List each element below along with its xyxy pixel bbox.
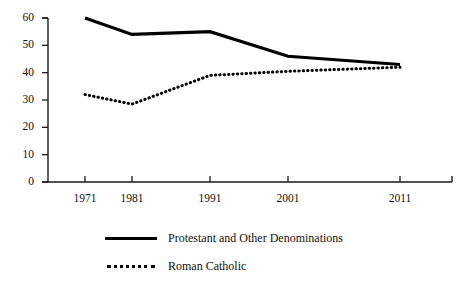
x-tick-label: 1971 xyxy=(60,192,110,204)
legend-dotted-line-icon xyxy=(105,260,157,272)
x-tick-label: 1991 xyxy=(185,192,235,204)
y-tick-label: 10 xyxy=(8,148,34,160)
legend-label-protestant: Protestant and Other Denominations xyxy=(168,231,343,245)
y-tick-label: 50 xyxy=(8,38,34,50)
x-tick-label: 1981 xyxy=(107,192,157,204)
x-tick-label: 2011 xyxy=(375,192,425,204)
y-tick-label: 40 xyxy=(8,66,34,78)
y-tick-label: 20 xyxy=(8,120,34,132)
y-tick-label: 0 xyxy=(8,175,34,187)
y-axis-ticks xyxy=(42,18,48,182)
y-tick-label: 60 xyxy=(8,11,34,23)
y-tick-label: 30 xyxy=(8,93,34,105)
x-tick-label: 2001 xyxy=(263,192,313,204)
series-line-roman-catholic xyxy=(85,67,400,104)
legend-solid-line-icon xyxy=(105,232,157,244)
legend-label-roman-catholic: Roman Catholic xyxy=(168,259,246,273)
legend-item-protestant: Protestant and Other Denominations xyxy=(105,230,343,246)
series-line-protestant xyxy=(85,18,400,64)
x-axis-ticks xyxy=(85,176,400,182)
legend-item-roman-catholic: Roman Catholic xyxy=(105,258,246,274)
line-chart: 0102030405060 19711981199120012011 Prote… xyxy=(0,0,466,282)
